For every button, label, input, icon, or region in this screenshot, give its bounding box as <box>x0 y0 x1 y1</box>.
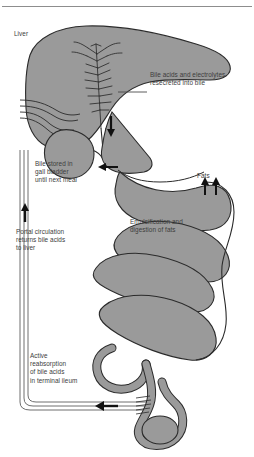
header-divider <box>2 6 252 7</box>
enterohepatic-circulation-figure: Liver Bile acids and electrolytes resecr… <box>0 0 254 457</box>
label-portal-circulation: Portal circulation returns bile acids to… <box>16 228 65 253</box>
label-gallbladder-storage: Bile stored in gall bladder until next m… <box>35 160 77 185</box>
terminal-ileum <box>97 348 183 446</box>
label-bile-resecreted: Bile acids and electrolytes resecreted i… <box>150 71 225 87</box>
label-liver: Liver <box>14 30 28 38</box>
label-ileal-reabsorption: Active reabsorption of bile acids in ter… <box>30 352 77 385</box>
duodenum <box>101 112 204 182</box>
label-emulsification: Emulsification and digestion of fats <box>130 218 183 234</box>
ileal-reabsorption-arrow <box>95 401 118 411</box>
label-fats: Fats <box>197 172 210 180</box>
small-intestine <box>93 172 234 360</box>
